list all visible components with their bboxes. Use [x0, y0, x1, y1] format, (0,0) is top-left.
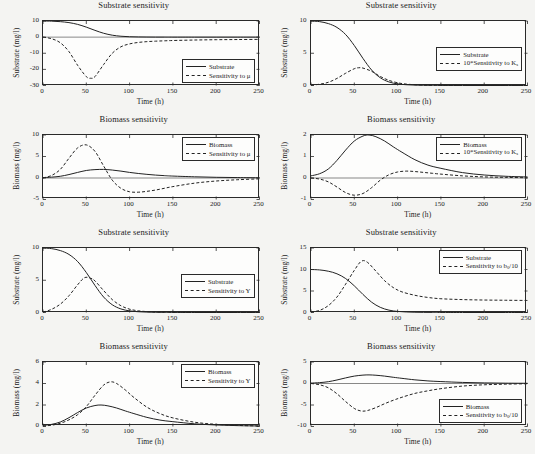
- y-tick-label: 5: [288, 286, 307, 294]
- subplot-p6: Substrate sensitivity0501001502002501510…: [268, 227, 535, 341]
- legend-label: 10*Sensitivity to Ks: [463, 58, 518, 69]
- legend-line-swatch: [443, 266, 463, 267]
- subplot-p5: Substrate sensitivity0501001502002501050…: [0, 227, 268, 341]
- y-tick-label: 5: [20, 275, 39, 283]
- subplot-title: Substrate sensitivity: [268, 0, 535, 10]
- legend[interactable]: Biomass10*Sensitivity to Ks: [436, 137, 522, 161]
- x-tick-label: 200: [210, 427, 221, 435]
- x-tick-label: 50: [349, 87, 356, 95]
- y-tick-label: 10: [20, 16, 39, 24]
- x-tick-label: 0: [308, 427, 312, 435]
- y-axis-label: Substrate (mg/l): [280, 20, 289, 85]
- legend-entry: Biomass: [185, 367, 250, 376]
- series-line-0: [43, 169, 260, 177]
- series-line-0: [43, 21, 260, 37]
- x-tick-label: 50: [82, 427, 89, 435]
- y-axis-label: Substrate (mg/l): [12, 247, 21, 312]
- x-tick-label: 50: [349, 427, 356, 435]
- x-tick-label: 50: [349, 314, 356, 322]
- legend-line-swatch: [443, 257, 463, 258]
- legend-label: Sensitivity to μ: [209, 149, 250, 158]
- x-tick-label: 150: [434, 314, 445, 322]
- x-axis-label: Time (h): [42, 210, 259, 219]
- legend-entry: Sensitivity to μ: [186, 149, 250, 158]
- x-tick-label: 200: [210, 200, 221, 208]
- legend-label: Sensitivity to Y: [208, 286, 250, 295]
- legend-label: Sensitivity to b0/10: [466, 410, 518, 421]
- legend-line-swatch: [440, 63, 460, 64]
- subplot-p1: Substrate sensitivity050100150200250100-…: [0, 0, 268, 114]
- y-axis-label: Substrate (mg/l): [280, 247, 289, 312]
- x-tick-label: 250: [253, 427, 264, 435]
- legend-line-swatch: [185, 371, 205, 372]
- y-tick-label: 0: [288, 308, 307, 316]
- legend-entry: Sensitivity to b0/10: [443, 411, 518, 420]
- series-line-0: [43, 404, 260, 425]
- x-tick-label: 0: [308, 87, 312, 95]
- x-tick-label: 200: [210, 87, 221, 95]
- y-axis-label: Biomass (mg/l): [12, 361, 21, 426]
- legend-entry: Sensitivity to b0/10: [443, 262, 518, 271]
- y-tick-label: 0: [288, 81, 307, 89]
- legend-label: Biomass: [209, 140, 232, 149]
- y-tick-label: 10: [20, 130, 39, 138]
- legend-line-swatch: [440, 153, 460, 154]
- legend-line-swatch: [186, 144, 206, 145]
- legend[interactable]: SubstrateSensitivity to b0/10: [439, 250, 522, 274]
- legend-label: Biomass: [208, 367, 231, 376]
- x-tick-label: 100: [123, 87, 134, 95]
- legend-line-swatch: [443, 415, 463, 416]
- y-tick-label: 0: [20, 421, 39, 429]
- series-line-1: [43, 381, 260, 425]
- legend-entry: Sensitivity to Y: [185, 376, 250, 385]
- y-tick-label: 10: [288, 265, 307, 273]
- legend-line-swatch: [443, 406, 463, 407]
- legend[interactable]: Substrate10*Sensitivity to Ks: [436, 47, 522, 71]
- x-tick-label: 100: [123, 427, 134, 435]
- x-tick-label: 150: [434, 200, 445, 208]
- subplot-title: Substrate sensitivity: [268, 227, 535, 237]
- legend[interactable]: SubstrateSensitivity to μ: [182, 59, 254, 83]
- legend-entry: Sensitivity to μ: [186, 71, 250, 80]
- x-tick-label: 200: [477, 87, 488, 95]
- subplot-title: Biomass sensitivity: [0, 114, 268, 124]
- x-tick-label: 100: [391, 314, 402, 322]
- legend-line-swatch: [186, 75, 206, 76]
- x-tick-label: 150: [434, 87, 445, 95]
- legend-line-swatch: [185, 290, 205, 291]
- x-tick-label: 0: [308, 314, 312, 322]
- x-tick-label: 0: [40, 200, 44, 208]
- legend-label: Substrate: [209, 62, 234, 71]
- legend[interactable]: BiomassSensitivity to Y: [181, 364, 254, 388]
- x-tick-label: 50: [82, 200, 89, 208]
- subplot-title: Biomass sensitivity: [268, 341, 535, 351]
- legend[interactable]: BiomassSensitivity to μ: [182, 137, 254, 161]
- y-tick-label: 6: [20, 357, 39, 365]
- x-tick-label: 250: [253, 200, 264, 208]
- x-tick-label: 250: [521, 427, 532, 435]
- subplot-title: Biomass sensitivity: [0, 341, 268, 351]
- x-tick-label: 0: [40, 87, 44, 95]
- subplot-title: Substrate sensitivity: [0, 227, 268, 237]
- legend-label: Sensitivity to b0/10: [466, 261, 518, 272]
- y-axis-label: Biomass (mg/l): [12, 134, 21, 199]
- x-tick-label: 200: [477, 427, 488, 435]
- x-tick-label: 250: [521, 87, 532, 95]
- legend-label: 10*Sensitivity to Ks: [463, 147, 518, 158]
- y-tick-label: 4: [20, 378, 39, 386]
- y-tick-label: 1: [288, 151, 307, 159]
- x-tick-label: 150: [167, 200, 178, 208]
- legend-entry: Biomass: [186, 140, 250, 149]
- x-tick-label: 0: [308, 200, 312, 208]
- x-tick-label: 250: [253, 314, 264, 322]
- legend[interactable]: BiomassSensitivity to b0/10: [439, 399, 522, 423]
- x-tick-label: 150: [434, 427, 445, 435]
- legend-label: Sensitivity to Y: [208, 376, 250, 385]
- subplot-p3: Biomass sensitivity0501001502002501050-5…: [0, 114, 268, 228]
- y-tick-label: 2: [288, 130, 307, 138]
- x-tick-label: 150: [167, 314, 178, 322]
- y-tick-label: -10: [20, 48, 39, 56]
- legend[interactable]: SubstrateSensitivity to Y: [181, 274, 254, 298]
- x-axis-label: Time (h): [42, 97, 259, 106]
- legend-label: Sensitivity to μ: [209, 71, 250, 80]
